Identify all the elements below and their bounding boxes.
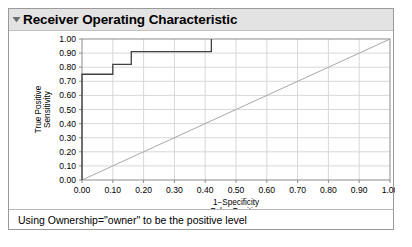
roc-report-panel: Receiver Operating Characteristic 0.000.… [8,8,394,230]
svg-text:1−Specificity: 1−Specificity [213,198,260,207]
svg-text:0.90: 0.90 [59,48,76,58]
svg-text:0.20: 0.20 [59,147,76,157]
svg-text:0.70: 0.70 [59,76,76,86]
svg-text:0.00: 0.00 [74,185,91,195]
svg-text:0.50: 0.50 [228,185,245,195]
svg-text:0.30: 0.30 [166,185,183,195]
svg-text:0.60: 0.60 [59,90,76,100]
svg-text:Sensitivity: Sensitivity [43,90,52,128]
svg-text:True Positive: True Positive [34,85,43,133]
svg-text:0.80: 0.80 [320,185,337,195]
y-axis-tick-labels: 0.000.100.200.300.400.500.600.700.800.90… [59,34,76,185]
svg-text:0.80: 0.80 [59,62,76,72]
svg-text:0.40: 0.40 [59,119,76,129]
roc-chart-svg: 0.000.100.200.300.400.500.600.700.800.90… [9,31,395,209]
svg-text:0.20: 0.20 [135,185,152,195]
svg-text:0.30: 0.30 [59,133,76,143]
svg-text:0.10: 0.10 [104,185,121,195]
panel-title-bar[interactable]: Receiver Operating Characteristic [9,9,393,31]
x-axis-tick-labels: 0.000.100.200.300.400.500.600.700.800.90… [74,185,395,195]
svg-text:1.00: 1.00 [59,34,76,44]
roc-chart: 0.000.100.200.300.400.500.600.700.800.90… [9,31,393,209]
page-title: Receiver Operating Characteristic [23,12,237,27]
svg-text:1.00: 1.00 [382,185,395,195]
positive-level-note: Using Ownership="owner" to be the positi… [9,210,393,230]
svg-text:0.60: 0.60 [258,185,275,195]
svg-text:0.70: 0.70 [289,185,306,195]
svg-text:0.00: 0.00 [59,175,76,185]
svg-text:0.90: 0.90 [351,185,368,195]
svg-text:0.40: 0.40 [197,185,214,195]
triangle-down-icon[interactable] [9,9,23,31]
svg-text:0.10: 0.10 [59,161,76,171]
svg-text:0.50: 0.50 [59,105,76,115]
